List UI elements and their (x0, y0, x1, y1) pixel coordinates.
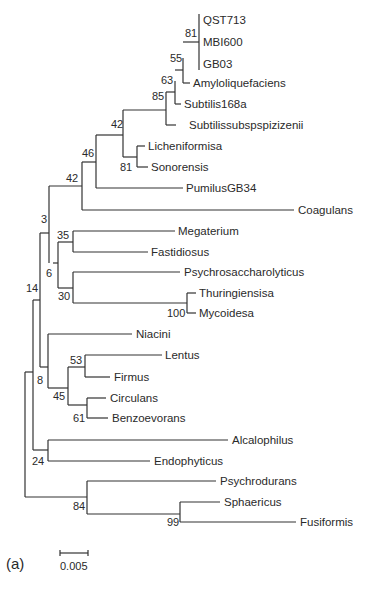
leaf-label: Mycoidesa (199, 307, 255, 319)
leaf-label: Subtilis168a (184, 98, 247, 110)
bootstrap-value: 46 (82, 147, 94, 159)
bootstrap-value: 35 (57, 229, 69, 241)
leaf-label: Benzoevorans (112, 412, 186, 424)
leaf-label: Fusiformis (300, 516, 353, 528)
leaf-label: Thuringiensisa (199, 287, 274, 299)
bootstrap-value: 6 (46, 267, 52, 279)
bootstrap-value: 45 (53, 390, 65, 402)
panel-label: (a) (6, 555, 24, 572)
leaf-label: Fastidiosus (151, 246, 209, 258)
leaf-label: Amyloliquefaciens (193, 77, 286, 89)
bootstrap-value: 42 (66, 172, 78, 184)
leaf-label: Niacini (136, 328, 171, 340)
leaf-label: Psychrosaccharolyticus (184, 266, 304, 278)
bootstrap-value: 42 (111, 118, 123, 130)
bootstrap-value: 61 (73, 412, 85, 424)
leaf-label: Endophyticus (154, 455, 223, 467)
leaf-label: PumilusGB34 (186, 182, 257, 194)
leaf-label: Megaterium (178, 225, 239, 237)
bootstrap-value: 100 (167, 307, 185, 319)
bootstrap-value: 53 (70, 354, 82, 366)
phylogenetic-tree: QST713MBI600GB03AmyloliquefaciensSubtili… (0, 0, 374, 592)
leaf-label: Alcalophilus (232, 434, 294, 446)
bootstrap-value: 3 (41, 213, 47, 225)
bootstrap-value: 55 (170, 52, 182, 64)
bootstrap-value: 81 (120, 161, 132, 173)
leaf-label: Lentus (165, 349, 200, 361)
leaf-label: Firmus (114, 371, 149, 383)
bootstrap-values: 8155638542814642335630100145384561248499 (26, 27, 197, 528)
leaf-label: MBI600 (203, 36, 243, 48)
bootstrap-value: 81 (185, 27, 197, 39)
bootstrap-value: 8 (37, 374, 43, 386)
leaf-label: Psychrodurans (220, 475, 297, 487)
bootstrap-value: 63 (161, 74, 173, 86)
leaf-label: Circulans (110, 392, 158, 404)
scale-bar-label: 0.005 (60, 560, 88, 572)
bootstrap-value: 14 (26, 282, 38, 294)
bootstrap-value: 30 (58, 290, 70, 302)
scale-bar: 0.005 (60, 550, 88, 572)
bootstrap-value: 84 (73, 500, 85, 512)
bootstrap-value: 99 (167, 516, 179, 528)
leaf-label: Subtilissubspspizizenii (189, 119, 303, 131)
bootstrap-value: 24 (32, 455, 44, 467)
bootstrap-value: 85 (152, 90, 164, 102)
leaf-labels: QST713MBI600GB03AmyloliquefaciensSubtili… (110, 14, 353, 528)
leaf-label: Licheniformisa (148, 140, 223, 152)
leaf-label: QST713 (203, 14, 246, 26)
leaf-label: Sphaericus (224, 496, 282, 508)
leaf-label: Coagulans (298, 204, 353, 216)
leaf-label: Sonorensis (151, 161, 209, 173)
leaf-label: GB03 (203, 58, 232, 70)
